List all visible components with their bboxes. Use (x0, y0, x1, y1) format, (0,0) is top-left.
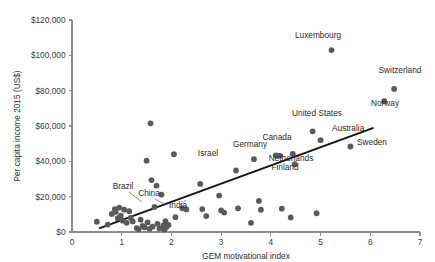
data-point (148, 120, 154, 126)
data-point (152, 204, 158, 210)
point-label: Australia (332, 123, 365, 133)
data-point (138, 217, 144, 223)
data-point (248, 220, 254, 226)
label-leader-line (155, 199, 166, 205)
data-point (116, 205, 122, 211)
data-point (348, 144, 354, 150)
point-label: Brazil (113, 181, 134, 191)
data-point (251, 156, 257, 162)
x-tick-label: 6 (368, 237, 373, 247)
data-point (197, 181, 203, 187)
point-labels-group: LuxembourgSwitzerlandNorwayUnited States… (113, 30, 422, 210)
x-tick-label: 0 (70, 237, 75, 247)
data-point (314, 210, 320, 216)
data-point (256, 198, 262, 204)
x-tick-label: 7 (418, 237, 423, 247)
data-point (235, 205, 241, 211)
y-axis-title: Per capita income 2015 (US$) (12, 70, 22, 181)
point-label: Norway (371, 98, 400, 108)
data-point (144, 158, 150, 164)
data-point (199, 206, 205, 212)
data-point (94, 219, 100, 225)
data-point (150, 224, 156, 230)
point-label: India (169, 200, 187, 210)
data-point (329, 47, 335, 53)
data-point (171, 151, 177, 157)
data-point (126, 208, 132, 214)
data-point (105, 222, 111, 228)
point-label: United States (292, 108, 342, 118)
x-tick-label: 4 (269, 237, 274, 247)
y-tick-label: $20,000 (36, 192, 66, 202)
data-point (121, 207, 127, 213)
data-point (130, 219, 136, 225)
x-tick-label: 3 (219, 237, 224, 247)
point-label: Switzerland (379, 65, 422, 75)
point-label: Luxembourg (295, 30, 342, 40)
x-tick-label: 1 (119, 237, 124, 247)
data-point (142, 225, 148, 231)
y-tick-label: $40,000 (36, 156, 66, 166)
point-label: Finland (271, 162, 299, 172)
data-point (288, 215, 294, 221)
data-point (124, 220, 130, 226)
point-label: Israel (198, 148, 218, 158)
data-point (203, 213, 209, 219)
x-tick-label: 2 (169, 237, 174, 247)
data-point (145, 220, 151, 226)
data-point (149, 177, 155, 183)
chart-canvas: $0$20,000$40,000$60,000$80,000$100,000$1… (0, 0, 435, 262)
point-label: China (138, 188, 160, 198)
point-label: Sweden (357, 137, 387, 147)
data-point (118, 213, 124, 219)
data-point (279, 206, 285, 212)
data-point (310, 128, 316, 134)
data-point (173, 214, 179, 220)
y-tick-label: $80,000 (36, 86, 66, 96)
data-point (258, 207, 264, 213)
y-tick-label: $0 (56, 227, 66, 237)
y-tick-label: $100,000 (31, 50, 66, 60)
data-point (166, 222, 172, 228)
y-tick-label: $120,000 (31, 15, 66, 25)
data-point (216, 193, 222, 199)
data-point (318, 137, 324, 143)
data-point (233, 168, 239, 174)
data-point (391, 86, 397, 92)
x-tick-label: 5 (318, 237, 323, 247)
data-point (221, 210, 227, 216)
point-label: Germany (233, 139, 268, 149)
scatter-plot-figure: $0$20,000$40,000$60,000$80,000$100,000$1… (0, 0, 435, 262)
x-axis-title: GEM motivational index (202, 251, 290, 261)
y-tick-label: $60,000 (36, 121, 66, 131)
